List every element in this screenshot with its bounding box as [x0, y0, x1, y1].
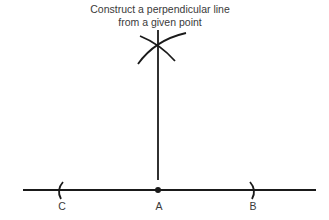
label-c: C	[56, 200, 68, 212]
construction-diagram	[0, 0, 329, 220]
label-a: A	[153, 200, 165, 212]
label-b: B	[247, 200, 259, 212]
point-a-dot	[155, 187, 161, 193]
